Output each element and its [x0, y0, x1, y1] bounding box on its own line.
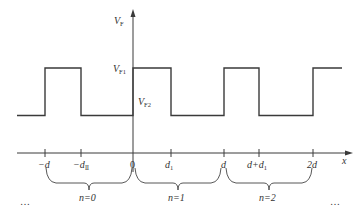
square-waveform: [17, 68, 342, 116]
high-level-label: VF1: [113, 64, 126, 76]
tick-label-d1: d1: [165, 160, 173, 172]
y-axis-label-sub: F: [120, 20, 124, 27]
tick-label-zero: 0: [130, 160, 135, 170]
y-axis-label: VF: [114, 16, 124, 28]
period-label-text: n=1: [168, 192, 185, 203]
x-axis-label-main: x: [342, 155, 346, 166]
tick-label-2d: 2d: [307, 160, 317, 170]
brace-n1: [135, 168, 221, 190]
period-label-n1: n=1: [168, 193, 185, 203]
period-label-text: n=2: [259, 192, 276, 203]
ellipsis-left: …: [20, 197, 30, 207]
tick-label-sub: Ⅱ: [85, 164, 89, 171]
ellipsis-right: …: [330, 197, 340, 207]
x-axis-label: x: [342, 156, 346, 166]
tick-label-d: d: [221, 160, 226, 170]
period-label-text: n=0: [79, 192, 96, 203]
low-level-label-sub: F2: [144, 101, 151, 108]
square-wave-diagram: [0, 0, 362, 217]
ellipsis-left-text: …: [20, 196, 30, 207]
tick-label-text: d+d: [247, 159, 264, 170]
tick-label-text: 2d: [307, 159, 317, 170]
y-axis-arrow-icon: [131, 9, 136, 17]
tick-label-text: 0: [130, 159, 135, 170]
tick-label-minus-dII: −dⅡ: [73, 160, 89, 172]
tick-label-text: d: [221, 159, 226, 170]
period-label-n2: n=2: [259, 193, 276, 203]
low-level-label: VF2: [138, 97, 151, 109]
tick-label-text: −d: [38, 159, 50, 170]
tick-label-text: −d: [73, 159, 85, 170]
tick-label-minus-d: −d: [38, 160, 50, 172]
x-axis: [17, 149, 353, 157]
tick-label-d-plus-d1: d+d1: [247, 160, 267, 172]
period-label-n0: n=0: [79, 193, 96, 203]
tick-label-sub: 1: [170, 164, 173, 171]
high-level-label-sub: F1: [119, 68, 126, 75]
brace-n2: [226, 168, 312, 190]
ellipsis-right-text: …: [330, 196, 340, 207]
tick-label-sub: 1: [264, 164, 267, 171]
